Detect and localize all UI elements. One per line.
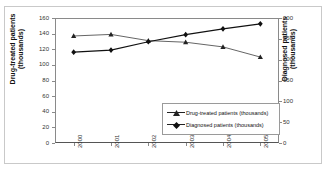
x-tick-mark <box>260 143 261 146</box>
right-tick-label: 150 <box>283 77 305 83</box>
right-tick-mark <box>279 143 282 144</box>
legend-label-diagnosed: Diagnosed patients (thousands) <box>186 120 264 130</box>
right-tick-mark <box>279 60 282 61</box>
left-tick-label: 80 <box>27 77 49 83</box>
right-tick-label: 0 <box>283 140 305 146</box>
right-tick-label: 250 <box>283 35 305 41</box>
left-tick-label: 0 <box>27 140 49 146</box>
left-tick-mark <box>52 127 55 128</box>
triangle-marker-icon <box>166 108 186 118</box>
right-tick-label: 200 <box>283 56 305 62</box>
data-point-diamond <box>183 32 188 38</box>
data-point-diamond <box>71 49 76 55</box>
x-tick-label: 2002 <box>151 135 157 148</box>
diamond-marker-icon <box>166 120 186 130</box>
left-tick-mark <box>52 96 55 97</box>
left-tick-label: 20 <box>27 124 49 130</box>
left-tick-label: 60 <box>27 93 49 99</box>
series-line <box>74 24 261 52</box>
left-tick-label: 160 <box>27 15 49 21</box>
left-tick-label: 120 <box>27 46 49 52</box>
chart-legend: Drug-treated patients (thousands) Diagno… <box>162 103 280 135</box>
x-tick-mark <box>74 143 75 146</box>
top-text-remnant <box>0 0 328 5</box>
data-point-triangle <box>108 32 113 37</box>
legend-item-drug-treated: Drug-treated patients (thousands) <box>166 107 276 119</box>
data-point-diamond <box>258 21 263 27</box>
data-point-diamond <box>109 47 114 53</box>
left-tick-mark <box>52 112 55 113</box>
data-point-diamond <box>221 26 226 32</box>
right-tick-mark <box>279 81 282 82</box>
left-tick-mark <box>52 18 55 19</box>
x-tick-mark <box>186 143 187 146</box>
x-tick-mark <box>223 143 224 146</box>
x-tick-label: 2001 <box>114 135 120 148</box>
left-axis-title: Drug-treated patients (thousands) <box>9 1 25 97</box>
left-tick-mark <box>52 81 55 82</box>
x-tick-label: 2000 <box>77 135 83 148</box>
right-tick-label: 50 <box>283 119 305 125</box>
right-tick-mark <box>279 18 282 19</box>
legend-label-drug-treated: Drug-treated patients (thousands) <box>186 108 268 118</box>
x-tick-label: 2005 <box>263 135 269 148</box>
left-tick-label: 140 <box>27 30 49 36</box>
left-tick-mark <box>52 143 55 144</box>
left-tick-label: 40 <box>27 108 49 114</box>
right-tick-label: 100 <box>283 98 305 104</box>
legend-item-diagnosed: Diagnosed patients (thousands) <box>166 119 276 131</box>
left-tick-mark <box>52 49 55 50</box>
x-tick-mark <box>111 143 112 146</box>
right-tick-mark <box>279 39 282 40</box>
x-tick-mark <box>148 143 149 146</box>
x-tick-label: 2003 <box>189 135 195 148</box>
x-tick-label: 2004 <box>226 135 232 148</box>
chart-frame: Drug-treated patients (thousands) Diagno… <box>4 6 322 164</box>
left-tick-label: 100 <box>27 61 49 67</box>
chart-page: Drug-treated patients (thousands) Diagno… <box>0 0 328 169</box>
right-tick-label: 300 <box>283 15 305 21</box>
left-tick-mark <box>52 65 55 66</box>
left-tick-mark <box>52 34 55 35</box>
data-point-diamond <box>146 39 151 45</box>
